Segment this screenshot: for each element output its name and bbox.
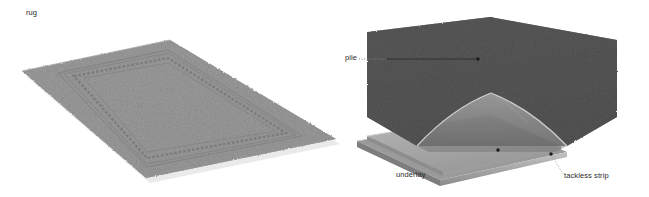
annotation-label-pile: pile bbox=[345, 53, 357, 62]
leader-dot-pile bbox=[476, 57, 479, 60]
leader-dot-tackless-strip bbox=[549, 152, 552, 155]
carpet-cutaway-illustration bbox=[339, 0, 649, 197]
figure-carpet-construction: rug bbox=[0, 0, 649, 197]
annotation-label-tackless-strip: tackless strip bbox=[564, 171, 609, 180]
figure-caption-rug: rug bbox=[26, 8, 37, 17]
annotation-label-underlay: underlay bbox=[396, 170, 426, 179]
leader-dot-underlay bbox=[496, 148, 499, 151]
rug-overview-illustration bbox=[0, 0, 349, 197]
fold-cast-shadow bbox=[417, 146, 567, 152]
